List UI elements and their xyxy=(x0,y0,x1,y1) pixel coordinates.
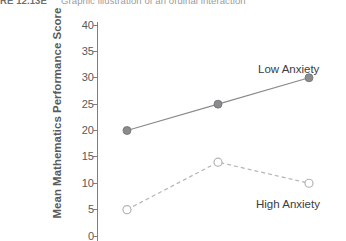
data-point xyxy=(123,127,131,135)
series-label-low-anxiety: Low Anxiety xyxy=(258,63,319,75)
data-point xyxy=(305,179,313,187)
series-label-high-anxiety: High Anxiety xyxy=(256,198,320,210)
series-low-anxiety-markers xyxy=(123,74,313,135)
data-point xyxy=(123,206,131,214)
data-point xyxy=(214,158,222,166)
data-point xyxy=(214,100,222,108)
figure-container: RE 12.13E Graphic illustration of an ord… xyxy=(0,0,346,241)
chart-plot-area: Mean Mathematics Performance Score 40 35… xyxy=(0,0,346,241)
series-low-anxiety xyxy=(123,74,313,135)
